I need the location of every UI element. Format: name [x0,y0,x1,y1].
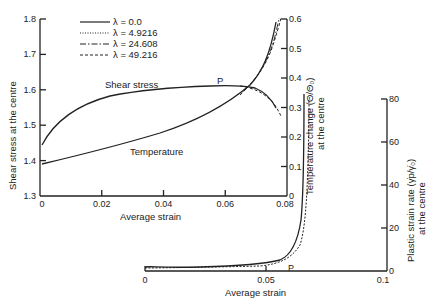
y-tick: 1.5 [23,120,36,130]
shear-stress-annotation: Shear stress [105,79,159,90]
y-tick: 1.7 [23,49,36,59]
far-y-axis-label-2: at the centre [416,182,427,235]
left-y-axis-label: Shear stress at the centre [7,81,18,190]
legend-label: λ = 24.608 [113,38,158,49]
bottom-x-tick-labels: 0 0.05 0.1 [142,275,389,285]
top-plot-series [42,18,281,164]
legend-label: λ = 4.9216 [113,27,158,38]
legend: λ = 0.0 λ = 4.9216 λ = 24.608 λ = 49.216 [80,16,158,60]
x-tick: 0.02 [93,199,111,209]
point-p-annotation: P [217,75,223,86]
x-tick: 0.1 [377,275,390,285]
x-tick: 0 [39,199,44,209]
right-y-tick-labels: 0 0.1 0.2 0.3 0.4 0.5 0.6 [289,14,302,201]
far-y-axis-label: Plastic strain rate (γ̇p/γ̇₀) [405,159,416,262]
temperature-annotation: Temperature [130,146,183,157]
x-tick: 0.05 [257,275,275,285]
x-tick: 0.04 [155,199,173,209]
x-tick: 0.06 [216,199,234,209]
legend-item: λ = 49.216 [80,49,158,60]
legend-label: λ = 49.216 [113,49,158,60]
far-y-tick: 60 [389,137,399,147]
y-tick: 1.6 [23,85,36,95]
y-tick: 1.8 [23,14,36,24]
x-tick: 0 [142,275,147,285]
point-p-bottom-annotation: P [288,263,294,273]
y2-tick: 0.1 [289,162,302,172]
far-y-tick: 80 [389,94,399,104]
y2-tick: 0 [289,191,294,201]
far-y-tick: 40 [389,180,399,190]
y-tick: 1.4 [23,156,36,166]
y2-tick: 0.6 [289,14,302,24]
bottom-plot-series [145,94,309,268]
chart-canvas: 1.3 1.4 1.5 1.6 1.7 1.8 0 0.02 0.04 0.06… [0,0,432,305]
far-y-tick-labels: 0 20 40 60 80 [389,94,399,276]
top-plot-axes [40,19,287,196]
legend-item: λ = 4.9216 [80,27,158,38]
y-tick: 1.3 [23,191,36,201]
legend-item: λ = 0.0 [80,16,142,27]
y2-tick: 0.4 [289,73,302,83]
y2-tick: 0.5 [289,44,302,54]
right-y-axis-label: Temperature change (Θ/Θ₀) [304,78,315,195]
far-y-tick: 20 [389,223,399,233]
y2-tick: 0.3 [289,103,302,113]
top-x-axis-label: Average strain [120,211,181,222]
y2-tick: 0.2 [289,132,302,142]
legend-label: λ = 0.0 [113,16,142,27]
bottom-x-axis-label: Average strain [225,287,286,298]
top-x-tick-labels: 0 0.02 0.04 0.06 0.08 [39,199,293,209]
right-y-axis-label-2: at the centre [315,97,326,150]
far-y-tick: 0 [389,266,394,276]
legend-item: λ = 24.608 [80,38,158,49]
left-y-tick-labels: 1.3 1.4 1.5 1.6 1.7 1.8 [23,14,36,201]
